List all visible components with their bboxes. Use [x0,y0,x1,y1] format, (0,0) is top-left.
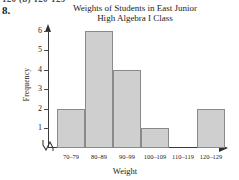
bar-80-89 [85,31,113,149]
y-tick-label-1: 1 [33,124,42,132]
histogram-figure: 120 (b) 120-129 8. Weights of Students i… [0,0,239,180]
bar-70-79 [57,109,85,149]
y-tick-1 [44,128,49,129]
y-tick-6 [44,31,49,32]
y-tick-label-6: 6 [33,27,42,35]
y-axis-label: Frequency [22,55,31,115]
plot-area: Frequency Weight 1 2 3 4 5 6 70–79 80–89… [0,0,239,180]
x-tick-label-70-79: 70–79 [57,153,85,160]
y-tick-5 [44,50,49,51]
y-tick-label-3: 3 [33,85,42,93]
bar-120-129 [197,109,225,149]
axis-break-icon [42,139,56,151]
y-tick-label-2: 2 [33,105,42,113]
x-tick-label-90-99: 90–99 [113,153,141,160]
x-axis-label: Weight [70,166,180,176]
y-tick-label-5: 5 [33,46,42,54]
x-tick-label-80-89: 80–89 [85,153,113,160]
bar-100-109 [141,128,169,148]
y-tick-4 [44,70,49,71]
y-tick-label-4: 4 [33,66,42,74]
bar-90-99 [113,70,141,149]
x-tick-label-120-129: 120–129 [195,153,227,160]
y-tick-2 [44,109,49,110]
y-tick-3 [44,89,49,90]
